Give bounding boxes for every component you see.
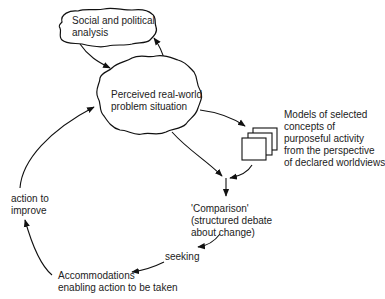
edge-perceived-to-models xyxy=(200,110,245,126)
edge-action-to-perceived xyxy=(20,107,94,188)
edge-models-to-comparison xyxy=(230,165,252,178)
models-label: Models of selected concepts of purposefu… xyxy=(284,109,385,169)
edge-perceived-to-comparison xyxy=(172,132,222,176)
seeking-label: seeking xyxy=(165,251,199,263)
perceived-problem-label: Perceived real-world problem situation xyxy=(111,89,202,113)
action-to-improve-label: action to improve xyxy=(11,193,49,217)
models-pages-icon xyxy=(242,128,277,160)
edge-accommodations-to-action xyxy=(25,220,52,275)
social-political-label: Social and political analysis xyxy=(72,15,155,39)
accommodations-label: Accommodations enabling action to be tak… xyxy=(58,270,178,294)
edge-social-to-perceived xyxy=(80,44,110,68)
comparison-label: 'Comparison' (structured debate about ch… xyxy=(191,203,272,239)
